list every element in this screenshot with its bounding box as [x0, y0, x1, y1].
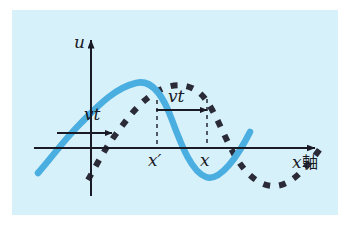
- x-axis-label: x軸: [292, 154, 318, 171]
- tick-label-x-prime: x′: [148, 152, 161, 169]
- tick-label-x: x: [200, 152, 210, 169]
- vt-label-right: vt: [168, 88, 184, 105]
- x-axis-label-math: x: [292, 152, 302, 172]
- wave-figure: u vt vt x′ x x軸: [0, 0, 350, 235]
- shifted-waveform-curve: [88, 85, 322, 186]
- y-axis-label: u: [74, 34, 85, 51]
- figure-canvas: [0, 0, 350, 235]
- vt-label-left: vt: [84, 106, 100, 123]
- initial-waveform-curve: [38, 82, 250, 177]
- x-axis-label-cjk: 軸: [302, 153, 318, 172]
